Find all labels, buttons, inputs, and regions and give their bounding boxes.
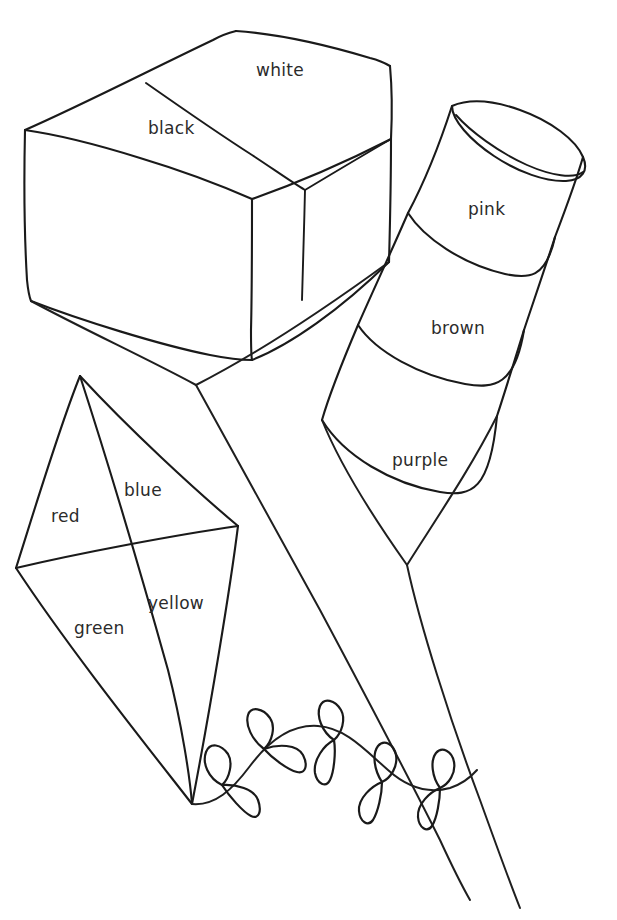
box-front-center-vert xyxy=(251,199,252,360)
bow-wing-right xyxy=(315,740,335,784)
box-right-back-vert xyxy=(390,66,392,139)
label-blue: blue xyxy=(124,480,162,500)
box-top-crease-right xyxy=(305,139,391,190)
cylinder-left-edge-1 xyxy=(408,106,452,213)
tail-bow xyxy=(359,743,396,823)
box-string-left xyxy=(31,301,196,385)
box-left-vert-edge xyxy=(24,130,31,301)
bow-wing-left xyxy=(319,701,343,740)
label-red: red xyxy=(51,506,80,526)
tail-bow xyxy=(247,709,305,772)
bow-wing-right xyxy=(264,746,306,772)
kite-tail-group xyxy=(192,701,477,830)
box-right-vert-edge xyxy=(389,139,391,262)
label-green: green xyxy=(74,618,125,638)
box-string-right xyxy=(196,262,389,385)
cylinder-shape xyxy=(322,101,585,493)
cylinder-top-rim-inner xyxy=(456,115,583,176)
label-purple: purple xyxy=(392,450,448,470)
label-black: black xyxy=(148,118,195,138)
kite-spar-horizontal xyxy=(16,526,238,568)
bow-wing-right xyxy=(418,788,440,829)
line-art-canvas xyxy=(0,0,617,920)
cylinder-string-right xyxy=(407,416,497,565)
cylinder-string-left xyxy=(322,420,407,565)
box-side-crease-vert xyxy=(302,190,305,300)
kite-edge-top-left xyxy=(16,376,80,568)
cylinder-band-pink-brown xyxy=(408,213,555,276)
label-brown: brown xyxy=(431,318,485,338)
cylinder-left-edge-2 xyxy=(358,213,408,325)
bow-wing-left xyxy=(433,750,455,788)
cylinder-left-edge-3 xyxy=(322,325,358,420)
bow-wing-left xyxy=(375,743,397,782)
box-top-left-edge xyxy=(25,31,236,130)
tail-bow xyxy=(315,701,343,785)
tail-bow xyxy=(205,745,260,817)
worksheet-page: white black pink brown purple red blue g… xyxy=(0,0,617,920)
bow-wing-left xyxy=(205,745,231,785)
cylinder-right-edge-1 xyxy=(555,157,583,237)
box-shape xyxy=(24,31,391,360)
kite-shape xyxy=(16,376,238,804)
cylinder-top-rim-outer xyxy=(452,101,585,181)
cylinder-string-tail xyxy=(407,565,520,908)
bow-wing-right xyxy=(359,782,382,823)
label-yellow: yellow xyxy=(148,593,204,613)
label-white: white xyxy=(256,60,304,80)
cylinder-right-edge-3 xyxy=(497,330,524,416)
cylinder-string-group xyxy=(322,416,520,908)
box-front-top-left-edge xyxy=(25,130,252,199)
box-bottom-left-edge xyxy=(31,301,252,360)
box-string-group xyxy=(31,262,470,900)
label-pink: pink xyxy=(468,199,505,219)
bow-wing-left xyxy=(247,709,273,749)
kite-spar-vertical xyxy=(80,376,192,804)
